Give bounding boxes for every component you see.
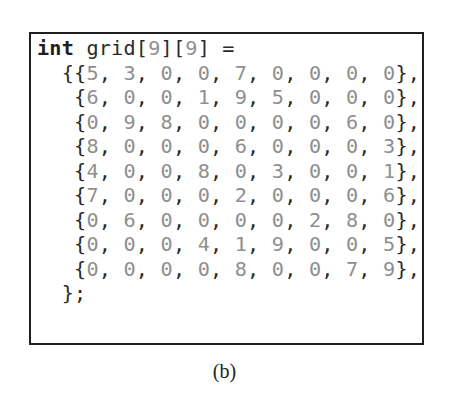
comma-separator: ,	[358, 110, 383, 134]
comma-separator: ,	[210, 183, 235, 207]
cell-value: 0	[161, 134, 173, 158]
cell-value: 0	[309, 232, 321, 256]
cell-value: 0	[272, 61, 284, 85]
cell-value: 0	[309, 183, 321, 207]
keyword-int: int	[37, 36, 74, 60]
cell-value: 0	[161, 159, 173, 183]
comma-separator: ,	[358, 61, 383, 85]
row-close-brace: },	[395, 183, 420, 207]
comma-separator: ,	[247, 85, 272, 109]
cell-value: 0	[124, 85, 136, 109]
comma-separator: ,	[136, 208, 161, 232]
cell-value: 0	[161, 61, 173, 85]
comma-separator: ,	[99, 134, 124, 158]
figure-caption: (b)	[0, 360, 449, 383]
cell-value: 0	[124, 159, 136, 183]
cell-value: 0	[346, 159, 358, 183]
comma-separator: ,	[358, 159, 383, 183]
cell-value: 0	[272, 257, 284, 281]
cell-value: 0	[161, 85, 173, 109]
cell-value: 0	[124, 232, 136, 256]
comma-separator: ,	[284, 134, 309, 158]
comma-separator: ,	[247, 183, 272, 207]
comma-separator: ,	[321, 110, 346, 134]
cell-value: 0	[161, 183, 173, 207]
comma-separator: ,	[321, 208, 346, 232]
comma-separator: ,	[173, 232, 198, 256]
row-open-brace: {	[37, 110, 86, 134]
comma-separator: ,	[210, 85, 235, 109]
comma-separator: ,	[247, 159, 272, 183]
row-open-brace: {	[37, 208, 86, 232]
comma-separator: ,	[173, 257, 198, 281]
comma-separator: ,	[99, 159, 124, 183]
comma-separator: ,	[99, 183, 124, 207]
row-close-brace: },	[395, 61, 420, 85]
declaration-line: int grid[9][9] =	[37, 36, 420, 61]
cell-value: 0	[272, 110, 284, 134]
comma-separator: ,	[210, 257, 235, 281]
comma-separator: ,	[210, 61, 235, 85]
comma-separator: ,	[210, 232, 235, 256]
cell-value: 8	[235, 257, 247, 281]
cell-value: 5	[383, 232, 395, 256]
comma-separator: ,	[136, 110, 161, 134]
cell-value: 0	[272, 208, 284, 232]
cell-value: 0	[346, 183, 358, 207]
row-open-brace: {{	[37, 61, 86, 85]
comma-separator: ,	[136, 159, 161, 183]
cell-value: 0	[309, 61, 321, 85]
row-close-brace: },	[395, 232, 420, 256]
comma-separator: ,	[247, 232, 272, 256]
cell-value: 8	[161, 110, 173, 134]
code-listing-box: int grid[9][9] = {{5, 3, 0, 0, 7, 0, 0, …	[29, 32, 424, 345]
comma-separator: ,	[136, 85, 161, 109]
cell-value: 0	[383, 208, 395, 232]
dim-rows: 9	[148, 36, 160, 60]
cell-value: 6	[346, 110, 358, 134]
cell-value: 0	[198, 61, 210, 85]
row-open-brace: {	[37, 183, 86, 207]
bracket-open-2: [	[173, 36, 185, 60]
row-close-brace: },	[395, 85, 420, 109]
cell-value: 2	[309, 208, 321, 232]
closing-line: };	[37, 281, 420, 306]
row-close-brace: },	[395, 134, 420, 158]
row-close-brace: },	[395, 257, 420, 281]
cell-value: 4	[86, 159, 98, 183]
cell-value: 0	[86, 232, 98, 256]
bracket-close-1: ]	[161, 36, 173, 60]
grid-row: {7, 0, 0, 0, 2, 0, 0, 0, 6},	[37, 183, 420, 208]
cell-value: 0	[346, 85, 358, 109]
grid-row: {{5, 3, 0, 0, 7, 0, 0, 0, 0},	[37, 61, 420, 86]
cell-value: 7	[86, 183, 98, 207]
comma-separator: ,	[321, 134, 346, 158]
grid-row: {0, 9, 8, 0, 0, 0, 0, 6, 0},	[37, 110, 420, 135]
comma-separator: ,	[358, 208, 383, 232]
grid-row: {0, 0, 0, 0, 8, 0, 0, 7, 9},	[37, 257, 420, 282]
dim-cols: 9	[185, 36, 197, 60]
comma-separator: ,	[358, 134, 383, 158]
comma-separator: ,	[321, 85, 346, 109]
cell-value: 7	[346, 257, 358, 281]
cell-value: 6	[383, 183, 395, 207]
comma-separator: ,	[136, 61, 161, 85]
cell-value: 0	[272, 183, 284, 207]
cell-value: 0	[198, 110, 210, 134]
row-open-brace: {	[37, 159, 86, 183]
comma-separator: ,	[210, 159, 235, 183]
cell-value: 0	[272, 134, 284, 158]
cell-value: 0	[309, 110, 321, 134]
comma-separator: ,	[99, 208, 124, 232]
comma-separator: ,	[358, 85, 383, 109]
comma-separator: ,	[173, 159, 198, 183]
comma-separator: ,	[358, 232, 383, 256]
row-open-brace: {	[37, 232, 86, 256]
cell-value: 4	[198, 232, 210, 256]
cell-value: 1	[235, 232, 247, 256]
grid-row: {4, 0, 0, 8, 0, 3, 0, 0, 1},	[37, 159, 420, 184]
cell-value: 8	[198, 159, 210, 183]
comma-separator: ,	[173, 110, 198, 134]
cell-value: 0	[383, 85, 395, 109]
cell-value: 5	[272, 85, 284, 109]
